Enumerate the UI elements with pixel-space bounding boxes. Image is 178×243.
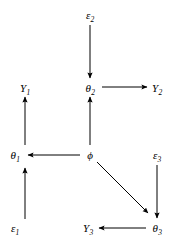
node-epsilon-2: ε2 <box>86 10 94 21</box>
node-epsilon-1: ε1 <box>11 223 19 234</box>
path-diagram: ε2 Y1 θ2 Y2 θ1 ϕ ε3 ε1 Y3 θ3 <box>0 0 178 243</box>
node-y-3-subscript: 3 <box>89 227 93 236</box>
edge-layer <box>0 0 178 243</box>
node-y-1: Y1 <box>20 83 30 94</box>
node-theta-2-subscript: 2 <box>91 87 95 96</box>
edge-phi-to-theta3 <box>97 162 148 213</box>
node-theta-2-base: θ <box>85 82 90 94</box>
node-theta-3-subscript: 3 <box>158 227 162 236</box>
node-epsilon-3-subscript: 3 <box>158 154 162 163</box>
node-epsilon-3: ε3 <box>153 150 161 161</box>
node-epsilon-1-subscript: 1 <box>16 227 20 236</box>
node-epsilon-2-subscript: 2 <box>91 14 95 23</box>
node-phi: ϕ <box>87 150 93 161</box>
node-y-3: Y3 <box>83 223 93 234</box>
node-theta-1: θ1 <box>10 150 19 161</box>
node-theta-1-subscript: 1 <box>16 154 20 163</box>
node-theta-3-base: θ <box>152 222 157 234</box>
node-phi-base: ϕ <box>87 149 93 161</box>
node-epsilon-1-base: ε <box>11 222 15 234</box>
node-theta-2: θ2 <box>85 83 94 94</box>
node-y-1-subscript: 1 <box>26 87 30 96</box>
node-y-2-subscript: 2 <box>158 87 162 96</box>
node-y-2: Y2 <box>152 83 162 94</box>
node-theta-3: θ3 <box>152 223 161 234</box>
node-theta-1-base: θ <box>10 149 15 161</box>
node-epsilon-3-base: ε <box>153 149 157 161</box>
node-epsilon-2-base: ε <box>86 9 90 21</box>
